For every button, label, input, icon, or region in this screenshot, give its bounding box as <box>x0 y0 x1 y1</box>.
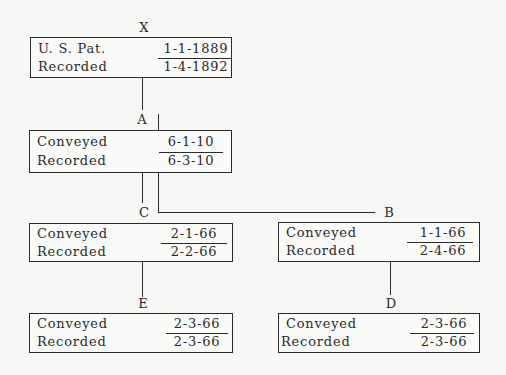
row2-label: Recorded <box>281 334 351 349</box>
row1-label: Conveyed <box>37 316 108 331</box>
row2-label: Recorded <box>38 59 108 74</box>
node-label-x: X <box>136 20 152 35</box>
row2-label: Recorded <box>37 334 107 349</box>
edge-b-d <box>390 262 391 295</box>
edge-a-b-horizontal <box>158 212 375 213</box>
row2-value: 6-3-10 <box>160 153 222 168</box>
row1-value: 1-1-1889 <box>161 41 231 56</box>
node-box-d: Conveyed 2-3-66 Recorded 2-3-66 <box>278 313 480 353</box>
node-label-c: C <box>136 205 152 220</box>
node-label-e: E <box>135 296 151 311</box>
row1-value: 2-3-66 <box>165 316 229 331</box>
row2-label: Recorded <box>37 244 107 259</box>
row1-label: Conveyed <box>286 316 357 331</box>
node-box-e: Conveyed 2-3-66 Recorded 2-3-66 <box>29 313 233 353</box>
edge-a-b-vertical <box>158 173 159 212</box>
row1-label: Conveyed <box>37 226 108 241</box>
row1-value: 1-1-66 <box>412 225 474 240</box>
row2-value: 2-4-66 <box>412 243 474 258</box>
row2-label: Recorded <box>37 153 107 168</box>
node-box-x: U. S. Pat. 1-1-1889 Recorded 1-4-1892 <box>30 37 232 78</box>
edge-c-e <box>142 262 143 297</box>
row1-label: Conveyed <box>37 134 108 149</box>
edge-a-tick <box>158 114 159 130</box>
node-box-a: Conveyed 6-1-10 Recorded 6-3-10 <box>29 130 232 173</box>
node-box-c: Conveyed 2-1-66 Recorded 2-2-66 <box>29 223 233 262</box>
row1-value: 6-1-10 <box>160 134 222 149</box>
edge-x-a <box>142 78 143 110</box>
node-label-d: D <box>383 296 399 311</box>
row2-value: 2-3-66 <box>165 334 229 349</box>
row1-label: U. S. Pat. <box>38 41 106 56</box>
node-label-b: B <box>381 205 397 220</box>
row1-value: 2-1-66 <box>163 226 225 241</box>
row2-value: 2-3-66 <box>412 334 476 349</box>
node-label-a: A <box>134 112 150 127</box>
row2-value: 1-4-1892 <box>161 59 231 74</box>
row1-label: Conveyed <box>286 225 357 240</box>
node-box-b: Conveyed 1-1-66 Recorded 2-4-66 <box>278 222 480 262</box>
row2-label: Recorded <box>286 243 356 258</box>
row1-value: 2-3-66 <box>412 316 476 331</box>
edge-a-c <box>142 173 143 203</box>
row2-value: 2-2-66 <box>163 244 225 259</box>
